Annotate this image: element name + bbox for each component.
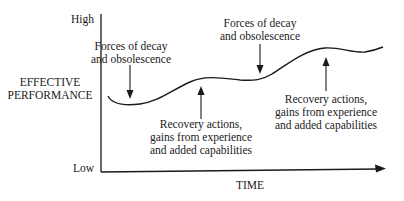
- recovery-arrow-2: [323, 57, 330, 91]
- annotation-line: and obsolescence: [90, 53, 172, 66]
- annotation-recovery-2: Recovery actions, gains from experience …: [270, 93, 382, 132]
- recovery-arrow-1: [198, 86, 205, 119]
- annotation-line: gains from experience: [270, 106, 382, 119]
- y-axis-high-label: High: [60, 13, 94, 26]
- y-axis-title-line-1: EFFECTIVE: [2, 76, 98, 89]
- annotation-line: and added capabilities: [270, 119, 382, 132]
- annotation-line: Recovery actions,: [270, 93, 382, 106]
- decay-arrow-2: [257, 44, 264, 74]
- annotation-line: Forces of decay: [90, 40, 172, 53]
- y-axis-low-label: Low: [60, 162, 94, 175]
- annotation-decay-2: Forces of decay and obsolescence: [218, 17, 302, 43]
- y-axis-title: EFFECTIVE PERFORMANCE: [2, 76, 98, 102]
- annotation-line: Forces of decay: [218, 17, 302, 30]
- x-axis: [101, 169, 378, 172]
- annotation-line: and obsolescence: [218, 30, 302, 43]
- x-axis-title: TIME: [220, 179, 280, 192]
- annotation-recovery-1: Recovery actions, gains from experience …: [145, 118, 257, 157]
- annotation-line: and added capabilities: [145, 144, 257, 157]
- decay-arrow-1: [127, 65, 134, 99]
- y-axis-title-line-2: PERFORMANCE: [2, 89, 98, 102]
- x-axis-arrowhead-icon: [375, 165, 386, 173]
- annotation-decay-1: Forces of decay and obsolescence: [90, 40, 172, 66]
- annotation-line: gains from experience: [145, 131, 257, 144]
- annotation-line: Recovery actions,: [145, 118, 257, 131]
